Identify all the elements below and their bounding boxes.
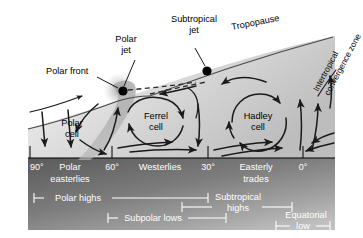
- label-polar-cell-line1: Polar: [61, 118, 82, 128]
- sky-fill: [28, 36, 335, 158]
- label-polar-jet-line2: jet: [120, 45, 131, 55]
- lat-label-30: 30°: [201, 162, 215, 172]
- atmosphere-region: [28, 36, 335, 158]
- diagram-canvas: Polar front Polar jet Subtropical jet Tr…: [0, 0, 363, 238]
- label-polar-cell-line2: cell: [65, 129, 79, 139]
- label-ferrel-cell-line1: Ferrel: [144, 111, 168, 121]
- label-equatorial-low-line2: low: [296, 221, 310, 231]
- label-tropopause: Tropopause: [230, 13, 280, 32]
- label-polar-easterlies-line2: easterlies: [50, 174, 90, 184]
- label-subpolar-lows: Subpolar lows: [124, 213, 182, 223]
- label-subtropical-highs-line2: highs: [227, 203, 249, 213]
- label-hadley-cell-line2: cell: [251, 122, 265, 132]
- label-subtropical-highs-line1: Subtropical: [215, 192, 261, 202]
- label-subtropical-jet-line2: jet: [188, 25, 199, 35]
- lat-label-0: 0°: [299, 162, 308, 172]
- label-polar-front: Polar front: [46, 66, 89, 76]
- lat-label-90: 90°: [30, 162, 44, 172]
- subtropical-jet-leader: [195, 48, 205, 66]
- subtropical-jet-dot: [202, 66, 211, 75]
- lat-label-60: 60°: [105, 162, 119, 172]
- label-ferrel-cell-line2: cell: [149, 122, 163, 132]
- label-equatorial-low-line1: Equatorial: [285, 210, 326, 220]
- label-hadley-cell-line1: Hadley: [244, 111, 273, 121]
- label-polar-jet-line1: Polar: [115, 34, 136, 44]
- label-easterly-trades-line1: Easterly: [239, 162, 273, 172]
- label-polar-easterlies-line1: Polar: [59, 162, 80, 172]
- label-easterly-trades-line2: trades: [243, 174, 269, 184]
- label-polar-highs: Polar highs: [55, 193, 101, 203]
- polar-jet-dot: [118, 86, 127, 95]
- atmospheric-circulation-figure: Polar front Polar jet Subtropical jet Tr…: [0, 0, 363, 238]
- label-westerlies: Westerlies: [139, 162, 182, 172]
- label-subtropical-jet-line1: Subtropical: [171, 14, 217, 24]
